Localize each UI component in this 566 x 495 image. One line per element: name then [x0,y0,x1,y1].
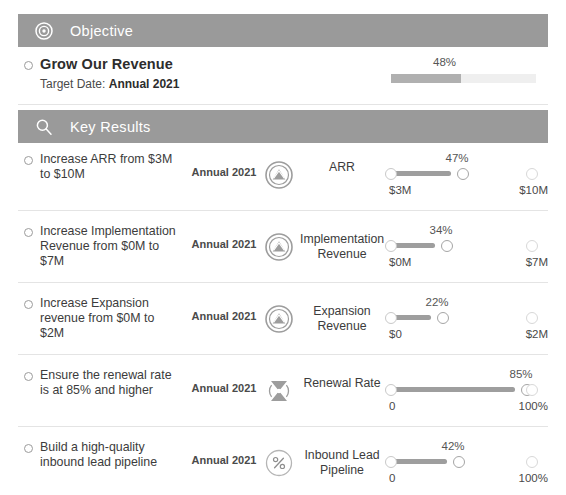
key-result-slider[interactable]: 47%$3M$10M [373,152,548,212]
key-result-period: Annual 2021 [186,166,262,178]
slider-min-label: $3M [389,184,411,196]
slider-knob-start[interactable] [385,168,397,180]
percent-circle-icon [264,448,294,478]
key-result-percent: 47% [445,152,468,164]
objective-section-label: Objective [70,23,133,39]
slider-knob-current[interactable] [453,456,465,468]
slider-track[interactable] [391,387,515,392]
key-result-percent: 34% [429,224,452,236]
key-result-description-block: Increase ARR from $3M to $10M [24,152,180,182]
slider-knob-start[interactable] [385,456,397,468]
key-result-slider[interactable]: 34%$0M$7M [373,224,548,284]
key-result-percent: 22% [425,296,448,308]
target-icon [34,21,54,41]
key-result-status-radio[interactable] [24,228,33,237]
key-result-metric-name: Expansion Revenue [300,304,384,334]
slider-min-label: 0 [389,400,395,412]
key-result-metric-name: Inbound Lead Pipeline [300,448,384,478]
key-result-row[interactable]: Increase ARR from $3M to $10MAnnual 2021… [18,152,548,214]
key-result-percent: 85% [509,368,532,380]
objective-progress-fill [391,74,461,83]
divider [18,426,548,427]
objective-target-date-value: Annual 2021 [109,77,180,91]
objective-row[interactable]: Grow Our Revenue Target Date: Annual 202… [18,56,548,102]
key-result-description: Increase Expansion revenue from $0M to $… [40,296,180,341]
key-result-slider[interactable]: 85%0100% [373,368,548,428]
slider-fill [391,171,451,176]
key-result-description: Increase Implementation Revenue from $0M… [40,224,180,269]
slider-knob-current[interactable] [457,168,469,180]
objective-progress-percent: 48% [433,56,456,68]
slider-knob-current[interactable] [437,312,449,324]
divider [18,354,548,355]
slider-fill [391,315,431,320]
slider-min-label: 0 [389,472,395,484]
key-result-description-block: Ensure the renewal rate is at 85% and hi… [24,368,180,398]
key-result-description-block: Build a high-quality inbound lead pipeli… [24,440,180,470]
key-result-description: Ensure the renewal rate is at 85% and hi… [40,368,180,398]
key-result-status-radio[interactable] [24,444,33,453]
key-result-row[interactable]: Ensure the renewal rate is at 85% and hi… [18,368,548,430]
chart-up-circle-icon [264,232,294,262]
key-result-status-radio[interactable] [24,372,33,381]
slider-track[interactable] [391,243,435,248]
key-result-status-radio[interactable] [24,156,33,165]
objective-target-date-label: Target Date: [40,77,105,91]
slider-knob-start[interactable] [385,384,397,396]
key-result-period: Annual 2021 [186,310,262,322]
slider-track[interactable] [391,171,451,176]
key-result-description: Increase ARR from $3M to $10M [40,152,180,182]
key-result-percent: 42% [441,440,464,452]
slider-max-label: $10M [488,184,548,196]
divider [18,210,548,211]
key-result-description: Build a high-quality inbound lead pipeli… [40,440,180,470]
objective-status-radio[interactable] [24,61,33,70]
slider-track[interactable] [391,459,447,464]
key-result-description-block: Increase Expansion revenue from $0M to $… [24,296,180,341]
key-results-section-header: Key Results [18,110,548,143]
magnifier-icon [34,117,54,137]
key-result-period: Annual 2021 [186,454,262,466]
slider-max-label: 100% [488,472,548,484]
signal-circle-icon [264,376,294,406]
key-result-description-block: Increase Implementation Revenue from $0M… [24,224,180,269]
divider [18,282,548,283]
key-result-metric-name: Implementation Revenue [300,232,384,262]
slider-knob-end[interactable] [526,312,538,324]
slider-fill [391,387,515,392]
slider-min-label: $0 [389,328,402,340]
key-result-period: Annual 2021 [186,382,262,394]
key-result-metric-name: ARR [300,160,384,175]
key-result-slider[interactable]: 42%0100% [373,440,548,495]
okr-page: Objective Grow Our Revenue Target Date: … [0,0,566,495]
slider-knob-current[interactable] [441,240,453,252]
slider-knob-start[interactable] [385,240,397,252]
slider-track[interactable] [391,315,431,320]
objective-title: Grow Our Revenue [40,56,173,72]
key-result-status-radio[interactable] [24,300,33,309]
key-results-section-label: Key Results [70,119,151,135]
slider-knob-end[interactable] [526,384,538,396]
key-result-row[interactable]: Build a high-quality inbound lead pipeli… [18,440,548,495]
key-result-metric-name: Renewal Rate [300,376,384,391]
key-result-slider[interactable]: 22%$0$2M [373,296,548,356]
divider [18,104,548,105]
key-result-row[interactable]: Increase Implementation Revenue from $0M… [18,224,548,286]
objective-target-date: Target Date: Annual 2021 [40,77,179,91]
chart-up-circle-icon [264,304,294,334]
slider-max-label: $7M [488,256,548,268]
slider-min-label: $0M [389,256,411,268]
slider-knob-end[interactable] [526,240,538,252]
slider-fill [391,459,447,464]
slider-knob-end[interactable] [526,168,538,180]
slider-max-label: $2M [488,328,548,340]
objective-progress-track[interactable] [391,74,536,83]
slider-knob-end[interactable] [526,456,538,468]
chart-up-circle-icon [264,160,294,190]
slider-knob-start[interactable] [385,312,397,324]
slider-max-label: 100% [488,400,548,412]
slider-fill [391,243,435,248]
objective-text-block: Grow Our Revenue Target Date: Annual 202… [24,56,179,91]
key-result-period: Annual 2021 [186,238,262,250]
key-result-row[interactable]: Increase Expansion revenue from $0M to $… [18,296,548,358]
